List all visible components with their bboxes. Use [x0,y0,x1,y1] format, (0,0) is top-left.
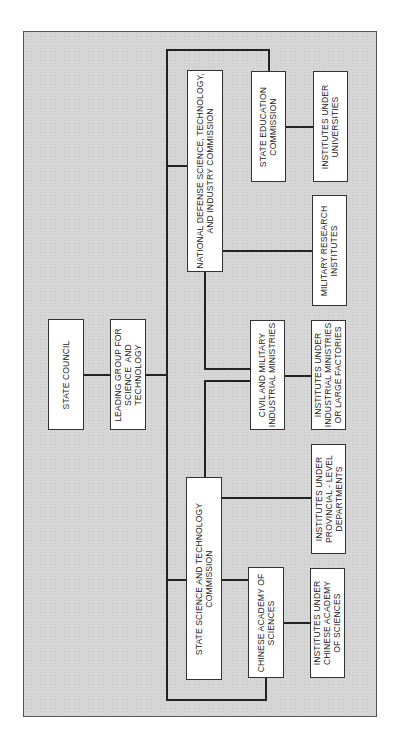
node-label: INSTITUTES UNDER INDUSTRIAL MINISTRIES O… [314,323,344,427]
node-state-council: STATE COUNCIL [48,319,84,430]
node-institutes-provincial: INSTITUTES UNDER PROVINCIAL - LEVEL DEPA… [311,444,346,554]
node-label: STATE EDUCATION COMMISSION [259,86,279,166]
civil-to-industrial-line [285,375,311,377]
node-civil-military: CIVIL AND MILITARY INDUSTRIAL MINISTRIES [250,320,285,430]
node-leading-group: LEADING GROUP FOR SCIENCE AND TECHNOLOGY [110,319,146,430]
node-state-education: STATE EDUCATION COMMISSION [251,71,286,182]
state-education-to-universities-line [286,126,313,128]
node-label: CIVIL AND MILITARY INDUSTRIAL MINISTRIES [258,323,278,427]
node-institutes-cas: INSTITUTES UNDER CHINESE ACADEMY OF SCIE… [310,568,345,678]
cas-to-institutes-line [284,622,310,624]
sstc-up-line [204,380,206,477]
node-label: INSTITUTES UNDER PROVINCIAL - LEVEL DEPA… [314,455,344,543]
sstc-to-provincial-line [222,497,311,499]
node-label: STATE SCIENCE AND TECHNOLOGY COMMISSION [194,502,214,654]
node-institutes-universities: INSTITUTES UNDER UNIVERSITIES [313,71,348,182]
top-line [166,49,270,51]
node-label: INSTITUTES UNDER UNIVERSITIES [321,84,341,169]
ndstic-to-civil-line [204,368,250,370]
node-ndstic: NATIONAL DEFENSE SCIENCE, TECHNOLOGY, AN… [187,70,223,272]
sstc-to-civil-line [204,380,250,382]
sstc-to-cas-line [222,579,248,581]
node-label: STATE COUNCIL [61,340,71,409]
ndstic-down-line [204,272,206,370]
node-label: LEADING GROUP FOR SCIENCE AND TECHNOLOGY [113,328,143,422]
ndstic-to-military-line [223,250,312,252]
node-cas: CHINESE ACADEMY OF SCIENCES [248,567,284,678]
bottom-to-cas-line [265,678,267,701]
leading-group-to-spine-line [146,374,167,376]
spine-to-ndstic-line [166,165,188,167]
top-to-state-education-line [268,49,270,71]
node-institutes-industrial: INSTITUTES UNDER INDUSTRIAL MINISTRIES O… [311,320,346,430]
node-sstc: STATE SCIENCE AND TECHNOLOGY COMMISSION [186,477,222,680]
node-label: NATIONAL DEFENSE SCIENCE, TECHNOLOGY, AN… [195,73,215,268]
node-label: MILITARY RESEARCH INSTITUTES [320,205,340,296]
bottom-line [166,699,267,701]
state-council-to-leading-group-line [84,374,110,376]
node-military-research: MILITARY RESEARCH INSTITUTES [312,195,347,306]
node-label: INSTITUTES UNDER CHINESE ACADEMY OF SCIE… [313,581,343,666]
node-label: CHINESE ACADEMY OF SCIENCES [256,573,276,672]
spine-to-sstc-line [166,579,186,581]
